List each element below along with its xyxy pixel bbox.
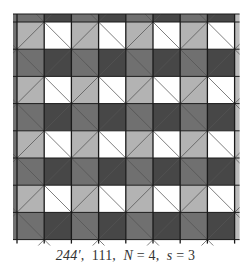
caption-sep: ,	[112, 248, 116, 263]
caption-sep: ,	[156, 248, 160, 263]
weave-pattern-figure: 244′, 111, N = 4, s = 3	[0, 0, 251, 273]
caption-n-value: = 4	[133, 248, 156, 263]
weave-pattern-diagram	[0, 0, 251, 248]
caption-number: 111	[92, 248, 113, 263]
caption-sep: ,	[81, 248, 85, 263]
caption-code: 244′	[56, 248, 81, 263]
figure-caption: 244′, 111, N = 4, s = 3	[0, 248, 251, 264]
caption-n-label: N	[123, 248, 133, 263]
caption-s-value: = 3	[172, 248, 195, 263]
